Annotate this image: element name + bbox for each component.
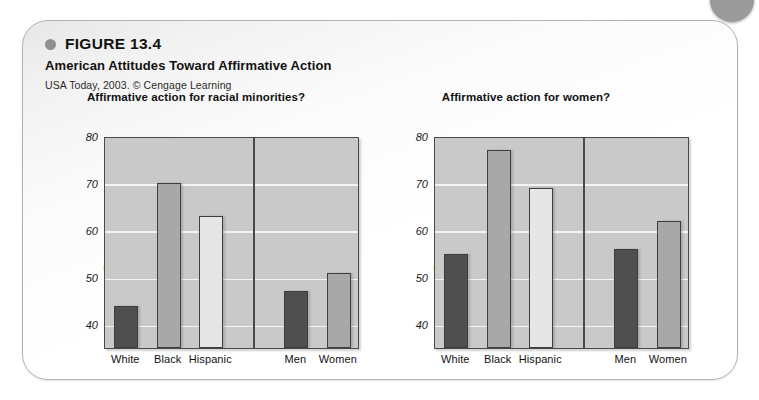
bar-white — [444, 254, 468, 348]
plot-area — [434, 137, 689, 349]
bar-men — [284, 291, 308, 348]
figure-number: FIGURE 13.4 — [65, 35, 161, 53]
gridline — [105, 279, 358, 281]
group-divider — [583, 138, 585, 348]
x-tick-label: Black — [154, 353, 181, 365]
y-tick-label: 70 — [86, 178, 98, 190]
y-tick-label: 40 — [86, 319, 98, 331]
x-tick-label: White — [111, 353, 140, 365]
bar-men — [614, 249, 638, 348]
plot-area — [104, 137, 359, 349]
filled-circle-icon — [45, 39, 56, 50]
x-tick-label: Women — [649, 353, 687, 365]
y-tick-label: 80 — [416, 131, 428, 143]
y-axis-ticks: 4050607080 — [75, 137, 101, 349]
x-tick-label: Black — [484, 353, 511, 365]
gridline — [105, 231, 358, 233]
bar-white — [114, 306, 138, 348]
figure-source: USA Today, 2003. © Cengage Learning — [45, 79, 705, 91]
x-tick-label: Hispanic — [519, 353, 562, 365]
y-tick-label: 60 — [416, 225, 428, 237]
y-axis-ticks: 4050607080 — [405, 137, 431, 349]
x-tick-label: Hispanic — [189, 353, 232, 365]
figure-header: FIGURE 13.4 American Attitudes Toward Af… — [45, 35, 705, 91]
x-tick-label: White — [441, 353, 470, 365]
gridline — [435, 279, 688, 281]
x-tick-label: Men — [614, 353, 636, 365]
chart-women: Affirmative action for women? Percentage… — [361, 91, 691, 371]
y-tick-label: 60 — [86, 225, 98, 237]
figure-number-row: FIGURE 13.4 — [45, 35, 705, 53]
y-tick-label: 50 — [416, 272, 428, 284]
chart-title: Affirmative action for racial minorities… — [31, 91, 361, 103]
y-tick-label: 70 — [416, 178, 428, 190]
gridline — [435, 184, 688, 186]
group-divider — [253, 138, 255, 348]
gridline — [435, 326, 688, 328]
x-axis-labels: WhiteBlackHispanicMenWomen — [104, 353, 359, 373]
chart-racial-minorities: Affirmative action for racial minorities… — [31, 91, 361, 371]
x-axis-labels: WhiteBlackHispanicMenWomen — [434, 353, 689, 373]
chart-title: Affirmative action for women? — [361, 91, 691, 103]
gridline — [105, 184, 358, 186]
y-tick-label: 80 — [86, 131, 98, 143]
charts-row: Affirmative action for racial minorities… — [23, 91, 737, 371]
bar-women — [327, 273, 351, 348]
gridline — [105, 326, 358, 328]
bar-women — [657, 221, 681, 348]
y-tick-label: 50 — [86, 272, 98, 284]
x-tick-label: Women — [319, 353, 357, 365]
y-tick-label: 40 — [416, 319, 428, 331]
bar-hispanic — [199, 216, 223, 348]
x-tick-label: Men — [284, 353, 306, 365]
bar-black — [157, 183, 181, 348]
corner-circle-icon — [710, 0, 754, 22]
bar-hispanic — [529, 188, 553, 348]
figure-panel: FIGURE 13.4 American Attitudes Toward Af… — [22, 20, 738, 380]
bar-black — [487, 150, 511, 348]
gridline — [435, 231, 688, 233]
figure-title: American Attitudes Toward Affirmative Ac… — [45, 58, 705, 73]
